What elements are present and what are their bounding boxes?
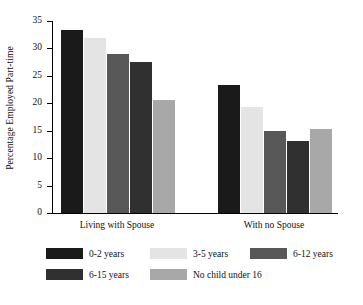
- legend-label: 6-15 years: [89, 270, 129, 280]
- legend-swatch: [150, 248, 187, 259]
- y-axis-tick-label: 25: [20, 71, 42, 81]
- legend-label: 3-5 years: [193, 249, 228, 259]
- y-axis-tick: [47, 48, 52, 49]
- legend-item[interactable]: 3-5 years: [150, 248, 250, 259]
- y-axis-tick: [47, 213, 52, 214]
- legend-label: 6-12 years: [293, 249, 333, 259]
- legend: 0-2 years3-5 years6-12 years6-15 yearsNo…: [46, 243, 346, 285]
- y-axis-tick-label: 35: [20, 16, 42, 26]
- y-axis-title: Percentage Employed Part-time: [2, 0, 18, 215]
- bar: [241, 107, 263, 213]
- x-axis-label: With no Spouse: [224, 220, 324, 230]
- legend-row: 0-2 years3-5 years6-12 years: [46, 243, 346, 264]
- legend-item[interactable]: 0-2 years: [46, 248, 150, 259]
- x-axis-label: Living with Spouse: [67, 220, 167, 230]
- y-axis-tick: [47, 103, 52, 104]
- plot-area: 35302520151050 Living with SpouseWith no…: [52, 14, 338, 220]
- legend-label: No child under 16: [193, 270, 262, 280]
- legend-swatch: [250, 248, 287, 259]
- legend-swatch: [150, 269, 187, 280]
- bar: [153, 100, 175, 213]
- legend-swatch: [46, 248, 83, 259]
- y-axis-tick-label: 0: [20, 208, 42, 218]
- bar: [84, 38, 106, 213]
- y-axis-tick-label: 15: [20, 126, 42, 136]
- legend-item[interactable]: No child under 16: [150, 269, 250, 280]
- legend-label: 0-2 years: [89, 249, 124, 259]
- bar-chart: Percentage Employed Part-time 3530252015…: [0, 0, 363, 305]
- legend-row: 6-15 yearsNo child under 16: [46, 264, 346, 285]
- bar: [287, 141, 309, 213]
- bar: [107, 54, 129, 213]
- bar: [310, 129, 332, 213]
- bar: [61, 30, 83, 213]
- y-axis-tick: [47, 158, 52, 159]
- y-axis-title-text: Percentage Employed Part-time: [5, 46, 15, 170]
- bar: [218, 85, 240, 213]
- y-axis-tick-label: 5: [20, 181, 42, 191]
- bar: [264, 131, 286, 213]
- y-axis-tick: [47, 21, 52, 22]
- y-axis-tick: [47, 131, 52, 132]
- y-axis-tick: [47, 76, 52, 77]
- bars-container: [53, 21, 338, 213]
- y-axis-tick-label: 30: [20, 43, 42, 53]
- x-axis-line: [52, 213, 338, 214]
- y-axis-tick: [47, 186, 52, 187]
- y-axis-tick-label: 10: [20, 153, 42, 163]
- bar: [130, 62, 152, 213]
- legend-swatch: [46, 269, 83, 280]
- legend-item[interactable]: 6-12 years: [250, 248, 346, 259]
- legend-item[interactable]: 6-15 years: [46, 269, 150, 280]
- y-axis-tick-label: 20: [20, 98, 42, 108]
